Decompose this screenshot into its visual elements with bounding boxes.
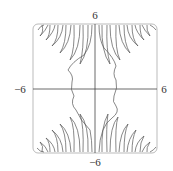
plot: 6 −6 −6 6 [0, 0, 173, 171]
y-max-label: 6 [92, 9, 98, 21]
y-min-label: −6 [89, 156, 101, 168]
x-max-label: 6 [161, 83, 167, 95]
curve [37, 25, 156, 152]
x-min-label: −6 [14, 83, 26, 95]
